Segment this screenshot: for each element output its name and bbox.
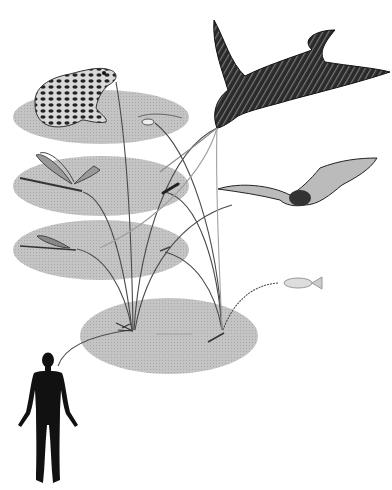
habitat-tiers [13,90,258,374]
fish-illustration [284,277,322,289]
bat-illustration [218,158,377,206]
human-silhouette [18,353,78,484]
swallow-illustration [214,20,390,128]
tier-4-ellipse [80,298,258,374]
food-web-diagram [0,0,392,490]
